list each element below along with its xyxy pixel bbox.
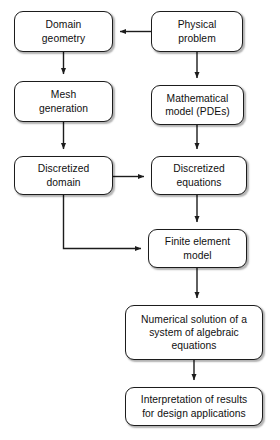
node-physical-problem-label: Physical problem	[175, 18, 220, 44]
flowchart-diagram: Domain geometry Physical problem Mesh ge…	[0, 0, 280, 440]
flowchart-connectors	[0, 0, 280, 440]
node-discretized-domain[interactable]: Discretized domain	[14, 156, 113, 195]
node-mathematical-model[interactable]: Mathematical model (PDEs)	[151, 85, 244, 125]
node-mathematical-model-label: Mathematical model (PDEs)	[162, 92, 233, 118]
node-interpretation[interactable]: Interpretation of results for design app…	[125, 387, 263, 426]
node-mesh-generation[interactable]: Mesh generation	[14, 81, 113, 122]
edge-discretized-domain-to-finite-element-model	[64, 195, 142, 249]
node-mesh-generation-label: Mesh generation	[36, 88, 91, 114]
node-discretized-domain-label: Discretized domain	[35, 162, 92, 188]
node-finite-element-model-label: Finite element model	[162, 235, 233, 261]
node-numerical-solution-label: Numerical solution of a system of algebr…	[138, 313, 250, 353]
node-numerical-solution[interactable]: Numerical solution of a system of algebr…	[125, 305, 263, 360]
node-domain-geometry[interactable]: Domain geometry	[14, 11, 113, 52]
node-domain-geometry-label: Domain geometry	[39, 18, 88, 44]
node-interpretation-label: Interpretation of results for design app…	[138, 393, 251, 419]
node-discretized-equations-label: Discretized equations	[170, 162, 227, 188]
node-physical-problem[interactable]: Physical problem	[151, 11, 243, 52]
node-finite-element-model[interactable]: Finite element model	[148, 229, 247, 268]
node-discretized-equations[interactable]: Discretized equations	[151, 156, 247, 195]
